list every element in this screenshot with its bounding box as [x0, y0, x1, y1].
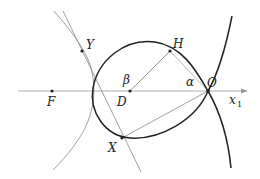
label-y: Y — [86, 38, 95, 52]
x1-axis-arrow-icon — [241, 89, 248, 94]
label-x: X — [107, 141, 117, 155]
point-f — [50, 89, 53, 92]
label-alpha: α — [186, 75, 194, 89]
label-x1-axis: x — [229, 93, 236, 107]
point-y — [80, 49, 83, 52]
label-d: D — [116, 95, 127, 109]
label-f: F — [46, 95, 56, 109]
point-d — [128, 89, 131, 92]
label-o: O — [207, 76, 217, 90]
label-beta: β — [122, 73, 130, 87]
label-h: H — [172, 37, 184, 51]
right-branch-curve — [208, 16, 232, 168]
label-x1-subscript: 1 — [237, 100, 242, 109]
segment-d-h — [130, 51, 170, 91]
loop-curve — [92, 42, 208, 139]
thin-curve — [53, 11, 94, 170]
point-h — [168, 49, 171, 52]
diagram-canvas: F D O H X Y α β x 1 — [0, 0, 260, 179]
point-x — [120, 136, 123, 139]
